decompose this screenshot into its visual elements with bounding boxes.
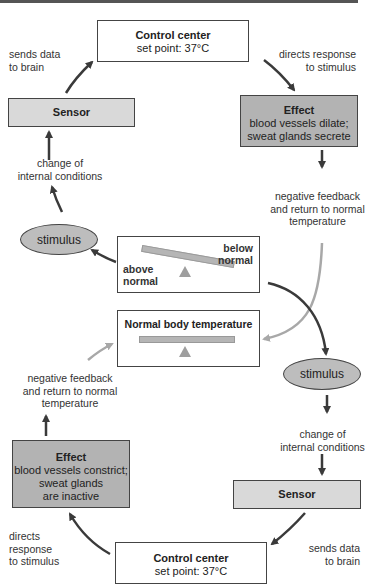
below-normal-label: below normal <box>218 242 253 266</box>
arrow-control-to-effect-bottom <box>70 514 110 554</box>
fulcrum-icon <box>179 346 191 357</box>
change-conditions-label-bottom: change of internal conditions <box>270 428 375 453</box>
arrow-feedback-to-normal <box>264 243 322 339</box>
change-conditions-label-top: change of internal conditions <box>0 157 120 182</box>
sensor-bottom: Sensor <box>233 480 361 509</box>
normal-body-temperature-box: Normal body temperature <box>117 310 260 367</box>
effect-bottom: Effect blood vessels constrict; sweat gl… <box>12 440 130 508</box>
arrow-feedback-to-normal-bottom <box>88 344 112 360</box>
negative-feedback-label-bottom: negative feedback and return to normal t… <box>10 372 130 410</box>
above-normal-label: above normal <box>123 263 158 287</box>
sensor-label: Sensor <box>278 488 315 500</box>
directs-response-label-top: directs response to stimulus <box>250 48 356 73</box>
control-center-title: Control center <box>98 29 248 42</box>
directs-response-label-bottom: directs response to stimulus <box>9 530 59 568</box>
seesaw-imbalanced-box: below normal above normal <box>117 236 260 293</box>
arrow-sensor-to-control <box>66 62 92 93</box>
control-center-title: Control center <box>116 552 266 565</box>
stimulus-ellipse-top: stimulus <box>20 224 98 255</box>
sends-data-label-top: sends data to brain <box>9 48 60 73</box>
sends-data-label-bottom: sends data to brain <box>290 542 360 567</box>
negative-feedback-label-top: negative feedback and return to normal t… <box>260 190 375 228</box>
sensor-label: Sensor <box>53 106 90 118</box>
normal-body-temperature-title: Normal body temperature <box>118 318 259 331</box>
effect-title: Effect <box>13 451 129 464</box>
stimulus-ellipse-bottom: stimulus <box>283 358 361 390</box>
sensor-top: Sensor <box>8 98 135 127</box>
seesaw-beam-level <box>139 336 235 343</box>
control-center-setpoint: set point: 37°C <box>116 565 266 578</box>
effect-top: Effect blood vessels dilate; sweat gland… <box>240 95 358 147</box>
arrow-box-to-stimulus-bottom <box>268 283 326 354</box>
control-center-top: Control center set point: 37°C <box>97 20 249 62</box>
control-center-setpoint: set point: 37°C <box>98 42 248 55</box>
fulcrum-icon <box>179 266 191 277</box>
effect-title: Effect <box>241 104 357 117</box>
control-center-bottom: Control center set point: 37°C <box>115 542 267 584</box>
arrow-box-to-stimulus <box>92 250 116 262</box>
arrow-sensor-to-control-bottom <box>272 513 305 544</box>
arrow-stimulus-to-change <box>52 187 62 212</box>
